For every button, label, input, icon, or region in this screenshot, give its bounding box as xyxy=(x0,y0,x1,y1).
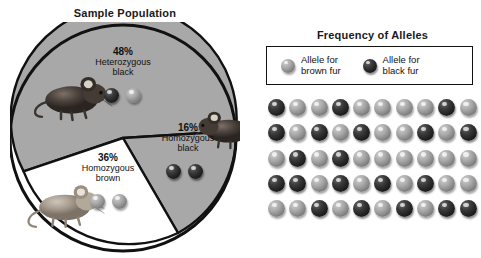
allele-frequency-grid xyxy=(268,99,480,231)
pie-label-name-line1: Homozygous xyxy=(138,133,238,143)
pie-allele-pair-heterozygous-black xyxy=(104,88,141,103)
allele-marble-brown xyxy=(112,194,127,209)
legend-label-black-line1: Allele for xyxy=(383,54,420,65)
allele-marble-black xyxy=(104,88,119,103)
allele-marble-black xyxy=(268,124,285,141)
legend-marble-black-icon xyxy=(363,59,377,73)
allele-marble-black xyxy=(311,200,328,217)
allele-marble-brown xyxy=(460,175,477,192)
allele-marble-black xyxy=(289,150,306,167)
allele-marble-brown xyxy=(460,150,477,167)
page-title-sample-population: Sample Population xyxy=(0,7,250,19)
allele-marble-brown xyxy=(289,124,306,141)
allele-grid-row xyxy=(268,124,480,141)
allele-marble-black xyxy=(460,124,477,141)
allele-marble-brown xyxy=(332,200,349,217)
allele-marble-brown xyxy=(396,124,413,141)
pie-label-homozygous-black: 16% Homozygous black xyxy=(138,122,238,153)
allele-marble-brown xyxy=(374,200,391,217)
allele-marble-brown xyxy=(438,175,455,192)
allele-marble-brown xyxy=(438,150,455,167)
pie-label-name-line2: brown xyxy=(56,173,160,183)
legend-label-brown-line1: Allele for xyxy=(301,54,338,65)
pie-allele-pair-homozygous-brown xyxy=(90,194,127,209)
pie-label-pct: 36% xyxy=(56,152,160,163)
allele-marble-brown xyxy=(353,99,370,116)
allele-marble-brown xyxy=(417,150,434,167)
allele-marble-brown xyxy=(332,124,349,141)
allele-marble-black xyxy=(417,124,434,141)
allele-marble-brown xyxy=(311,150,328,167)
allele-marble-black xyxy=(332,150,349,167)
allele-marble-black xyxy=(353,124,370,141)
allele-marble-brown xyxy=(311,175,328,192)
allele-marble-brown xyxy=(374,99,391,116)
allele-marble-brown xyxy=(374,124,391,141)
allele-marble-brown xyxy=(289,200,306,217)
allele-marble-brown xyxy=(268,150,285,167)
allele-grid-row xyxy=(268,200,480,217)
allele-marble-black xyxy=(332,175,349,192)
pie-label-pct: 48% xyxy=(68,46,178,57)
pie-label-heterozygous-black: 48% Heterozygous black xyxy=(68,46,178,77)
allele-marble-brown xyxy=(460,99,477,116)
pie-allele-pair-homozygous-black xyxy=(166,164,203,179)
allele-marble-brown xyxy=(90,194,105,209)
allele-marble-brown xyxy=(396,175,413,192)
allele-marble-black xyxy=(311,124,328,141)
allele-marble-brown xyxy=(417,200,434,217)
allele-marble-brown xyxy=(396,99,413,116)
allele-marble-brown xyxy=(268,200,285,217)
legend-item-brown-allele: Allele for brown fur xyxy=(281,55,341,77)
allele-marble-brown xyxy=(126,88,141,103)
allele-marble-brown xyxy=(353,175,370,192)
allele-marble-black xyxy=(396,200,413,217)
legend-label-black-line2: black fur xyxy=(383,65,419,76)
legend-marble-brown-icon xyxy=(281,59,295,73)
allele-marble-brown xyxy=(438,124,455,141)
pie-chart: 48% Heterozygous black 16% Homozygous bl… xyxy=(10,22,240,254)
allele-marble-black xyxy=(417,175,434,192)
allele-marble-black xyxy=(374,175,391,192)
allele-marble-black xyxy=(460,200,477,217)
legend-label-brown-line2: brown fur xyxy=(301,65,341,76)
allele-marble-brown xyxy=(289,99,306,116)
pie-label-homozygous-brown: 36% Homozygous brown xyxy=(56,152,160,183)
pie-label-pct: 16% xyxy=(138,122,238,133)
allele-marble-black xyxy=(268,175,285,192)
allele-marble-brown xyxy=(374,150,391,167)
allele-marble-black xyxy=(188,164,203,179)
allele-grid-row xyxy=(268,175,480,192)
pie-label-name-line2: black xyxy=(68,67,178,77)
allele-marble-brown xyxy=(353,150,370,167)
allele-marble-black xyxy=(268,99,285,116)
legend-label-black: Allele for black fur xyxy=(383,55,420,77)
allele-marble-black xyxy=(289,175,306,192)
legend: Allele for brown fur Allele for black fu… xyxy=(266,46,473,85)
allele-marble-black xyxy=(353,200,370,217)
allele-grid-row xyxy=(268,99,480,116)
legend-item-black-allele: Allele for black fur xyxy=(363,55,420,77)
allele-marble-black xyxy=(438,200,455,217)
page-title-frequency-of-alleles: Frequency of Alleles xyxy=(264,29,481,41)
allele-grid-row xyxy=(268,150,480,167)
allele-marble-brown xyxy=(417,99,434,116)
allele-marble-black xyxy=(332,99,349,116)
pie-label-name-line1: Heterozygous xyxy=(68,57,178,67)
allele-marble-black xyxy=(166,164,181,179)
legend-label-brown: Allele for brown fur xyxy=(301,55,341,77)
pie-label-name-line1: Homozygous xyxy=(56,163,160,173)
allele-marble-brown xyxy=(311,99,328,116)
allele-marble-brown xyxy=(396,150,413,167)
allele-marble-black xyxy=(438,99,455,116)
